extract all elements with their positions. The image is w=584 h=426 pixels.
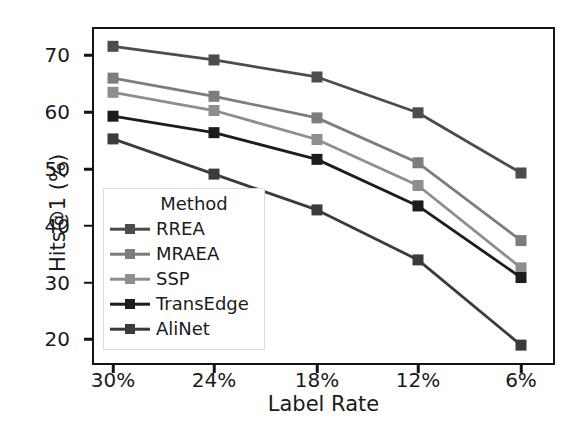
- data-point-marker: [108, 133, 119, 144]
- legend-item-transedge[interactable]: TransEdge: [110, 292, 256, 317]
- legend-swatch-icon: [110, 247, 150, 261]
- chart-figure: Hits@1 (%) 203040506070 30%24%18%12%6% L…: [0, 0, 584, 426]
- y-tick-label: 30: [24, 271, 70, 295]
- legend-item-alinet[interactable]: AliNet: [110, 317, 256, 342]
- data-point-marker: [209, 105, 220, 116]
- legend-item-label: TransEdge: [156, 294, 249, 315]
- data-point-marker: [209, 54, 220, 65]
- data-point-marker: [413, 254, 424, 265]
- data-point-marker: [312, 112, 323, 123]
- legend-marker: [125, 274, 135, 284]
- data-point-marker: [413, 200, 424, 211]
- data-point-marker: [108, 111, 119, 122]
- legend-item-ssp[interactable]: SSP: [110, 267, 256, 292]
- x-tick-label: 18%: [272, 368, 362, 392]
- legend-swatch-icon: [110, 222, 150, 236]
- data-point-marker: [516, 167, 527, 178]
- data-point-marker: [312, 71, 323, 82]
- data-point-marker: [312, 154, 323, 165]
- data-point-marker: [108, 73, 119, 84]
- legend-item-label: AliNet: [156, 319, 210, 340]
- data-point-marker: [108, 41, 119, 52]
- y-tick-label: 50: [24, 157, 70, 181]
- x-tick-label: 24%: [169, 368, 259, 392]
- legend-marker: [125, 224, 135, 234]
- legend-item-label: RREA: [156, 219, 205, 240]
- y-tick-mark: [84, 168, 92, 171]
- legend-item-label: SSP: [156, 269, 190, 290]
- data-point-marker: [312, 204, 323, 215]
- legend-entries: RREAMRAEASSPTransEdgeAliNet: [110, 217, 256, 342]
- legend-item-mraea[interactable]: MRAEA: [110, 242, 256, 267]
- legend: Method RREAMRAEASSPTransEdgeAliNet: [103, 188, 265, 350]
- data-point-marker: [413, 180, 424, 191]
- data-point-marker: [209, 127, 220, 138]
- legend-item-rrea[interactable]: RREA: [110, 217, 256, 242]
- legend-item-label: MRAEA: [156, 244, 219, 265]
- data-point-marker: [413, 107, 424, 118]
- x-tick-label: 30%: [68, 368, 158, 392]
- legend-swatch-icon: [110, 297, 150, 311]
- y-tick-mark: [84, 225, 92, 228]
- data-point-marker: [516, 235, 527, 246]
- y-tick-label: 60: [24, 100, 70, 124]
- data-point-marker: [209, 169, 220, 180]
- legend-swatch-icon: [110, 322, 150, 336]
- x-tick-label: 12%: [373, 368, 463, 392]
- data-point-marker: [209, 91, 220, 102]
- data-point-marker: [108, 87, 119, 98]
- y-tick-mark: [84, 281, 92, 284]
- data-point-marker: [312, 134, 323, 145]
- data-point-marker: [516, 262, 527, 273]
- data-point-marker: [516, 272, 527, 283]
- y-tick-label: 70: [24, 43, 70, 67]
- data-point-marker: [516, 340, 527, 351]
- x-axis-label: Label Rate: [92, 392, 555, 416]
- data-point-marker: [413, 157, 424, 168]
- y-tick-mark: [84, 111, 92, 114]
- legend-title: Method: [110, 194, 256, 215]
- legend-marker: [125, 324, 135, 334]
- y-tick-label: 20: [24, 327, 70, 351]
- y-tick-mark: [84, 338, 92, 341]
- legend-marker: [125, 249, 135, 259]
- y-tick-label: 40: [24, 214, 70, 238]
- legend-swatch-icon: [110, 272, 150, 286]
- x-tick-label: 6%: [476, 368, 566, 392]
- legend-marker: [125, 299, 135, 309]
- y-tick-mark: [84, 54, 92, 57]
